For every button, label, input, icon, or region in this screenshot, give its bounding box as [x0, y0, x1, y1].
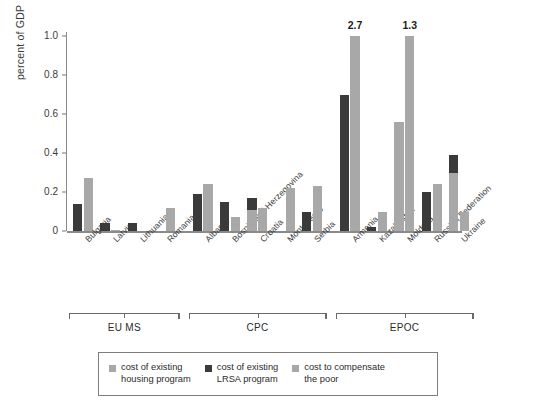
legend-label: cost of existing housing program — [121, 362, 191, 385]
y-tick-mark — [62, 192, 66, 193]
group-label-epoc: EPOC — [390, 322, 420, 333]
y-tick-mark — [62, 114, 66, 115]
square-swatch — [292, 365, 299, 372]
bar-lrsa-russian-federation — [422, 192, 431, 231]
legend-item-0: cost of existing housing program — [109, 362, 191, 385]
bar-compensate-moldova — [405, 36, 414, 231]
bar-housing-overlay-croatia — [247, 210, 256, 231]
bar-compensate-bulgaria — [84, 178, 93, 231]
bar-lrsa-serbia — [302, 212, 311, 232]
plot-area: BulgariaLatviaLithuaniaRomaniaAlbaniaBos… — [0, 0, 535, 408]
group-label-cpc: CPC — [247, 322, 269, 333]
bar-compensate-armenia — [350, 36, 359, 231]
group-bracket-epoc — [336, 313, 474, 320]
legend-item-1: cost of existing LRSA program — [205, 362, 279, 385]
y-tick-mark — [62, 153, 66, 154]
legend-label: cost of existing LRSA program — [217, 362, 279, 385]
bar-lrsa-armenia — [340, 95, 349, 232]
bar-lrsa-bulgaria — [73, 204, 82, 231]
bar-lrsa-albania — [193, 194, 202, 231]
bar-housing-overlay-ukraine — [449, 173, 458, 232]
group-label-eu-ms: EU MS — [108, 322, 141, 333]
bar-value-label: 2.7 — [348, 19, 363, 31]
legend-label: cost to compensate the poor — [304, 362, 385, 385]
bar-lrsa-kazakhstan — [367, 227, 376, 231]
bar-lrsa-lithuania — [128, 223, 137, 231]
chart-legend: cost of existing housing programcost of … — [98, 352, 438, 396]
legend-item-2: cost to compensate the poor — [292, 362, 385, 385]
bar-lrsa-latvia — [100, 223, 109, 231]
bar-compensate-montenegro — [286, 188, 295, 231]
square-swatch — [109, 365, 116, 372]
bar-compensate-russian-federation — [433, 184, 442, 231]
bar-compensate-serbia — [313, 186, 322, 231]
bar-value-label: 1.3 — [402, 19, 417, 31]
bar-housing-moldova — [394, 122, 403, 231]
group-bracket-eu-ms — [69, 313, 180, 320]
y-tick-mark — [62, 36, 66, 37]
group-bracket-cpc — [189, 313, 327, 320]
y-tick-mark — [62, 231, 66, 232]
square-swatch — [205, 365, 212, 372]
chart-figure: percent of GDP 00.20.40.60.81.0 Bulgaria… — [0, 0, 535, 408]
bar-lrsa-bosnia-and-herzegovina — [220, 202, 229, 231]
bar-compensate-albania — [203, 184, 212, 231]
y-tick-mark — [62, 75, 66, 76]
